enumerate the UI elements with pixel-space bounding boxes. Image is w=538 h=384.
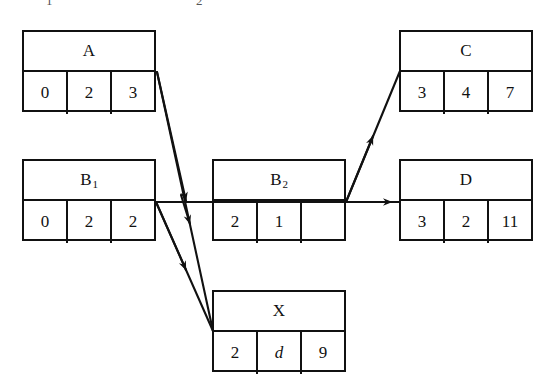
node-b1-cell-1[interactable]: 2: [68, 201, 112, 243]
edge-b1-to-x-arrowhead: [156, 202, 186, 270]
node-d-label: D: [460, 170, 473, 190]
node-x-header: X: [214, 292, 344, 332]
node-b2-cell-2[interactable]: [302, 201, 344, 243]
caption-fragment-left: 1: [46, 0, 53, 7]
node-b1-cell-0[interactable]: 0: [24, 201, 68, 243]
node-b2-cell-1[interactable]: 1: [258, 201, 302, 243]
node-x-label: X: [273, 301, 286, 321]
node-x-cell-0[interactable]: 2: [214, 332, 258, 374]
node-a[interactable]: A 0 2 3: [22, 30, 156, 112]
node-b1-cell-2[interactable]: 2: [112, 201, 154, 243]
edge-a-to-b2: [157, 72, 186, 201]
node-x-cells: 2 d 9: [214, 332, 344, 374]
node-a-cell-1[interactable]: 2: [68, 72, 112, 114]
clipped-caption-strip: 1 2: [0, 0, 538, 9]
node-d-header: D: [401, 161, 531, 201]
edge-a-to-x: [157, 72, 213, 331]
node-a-cell-0[interactable]: 0: [24, 72, 68, 114]
edge-b1-to-x: [156, 202, 213, 331]
node-b2-header: B2: [214, 161, 344, 201]
node-b1-label-subscript: 1: [92, 178, 98, 190]
node-b1-cells: 0 2 2: [24, 201, 154, 243]
node-d-cell-1[interactable]: 2: [445, 201, 489, 243]
node-d[interactable]: D 3 2 11: [399, 159, 533, 241]
node-c-cell-0[interactable]: 3: [401, 72, 445, 114]
edge-b2-to-c-arrowhead: [346, 136, 373, 202]
node-a-cell-2[interactable]: 3: [112, 72, 154, 114]
node-c[interactable]: C 3 4 7: [399, 30, 533, 112]
node-c-cell-2[interactable]: 7: [489, 72, 531, 114]
node-b1-label: B: [80, 170, 92, 190]
node-x-cell-2[interactable]: 9: [302, 332, 344, 374]
node-b1-header: B1: [24, 161, 154, 201]
edge-b2-to-c: [346, 71, 400, 202]
node-b1[interactable]: B1 0 2 2: [22, 159, 156, 241]
node-b2-cell-0[interactable]: 2: [214, 201, 258, 243]
node-c-label: C: [460, 41, 472, 61]
node-c-cells: 3 4 7: [401, 72, 531, 114]
node-d-cells: 3 2 11: [401, 201, 531, 243]
node-a-label: A: [83, 41, 96, 61]
node-c-cell-1[interactable]: 4: [445, 72, 489, 114]
node-b2-label: B: [270, 170, 282, 190]
node-b2[interactable]: B2 2 1: [212, 159, 346, 241]
edge-a-to-x-direction-marker: [181, 195, 190, 224]
node-c-header: C: [401, 32, 531, 72]
node-a-cells: 0 2 3: [24, 72, 154, 114]
node-d-cell-0[interactable]: 3: [401, 201, 445, 243]
node-b2-label-subscript: 2: [282, 178, 288, 190]
node-a-header: A: [24, 32, 154, 72]
node-d-cell-2[interactable]: 11: [489, 201, 531, 243]
caption-fragment-right: 2: [196, 0, 203, 7]
node-x[interactable]: X 2 d 9: [212, 290, 346, 372]
node-b2-cells: 2 1: [214, 201, 344, 243]
node-x-cell-1[interactable]: d: [258, 332, 302, 374]
diagram-canvas: 1 2 A 0 2 3 B1 0 2 2 B2 2 1: [0, 0, 538, 384]
